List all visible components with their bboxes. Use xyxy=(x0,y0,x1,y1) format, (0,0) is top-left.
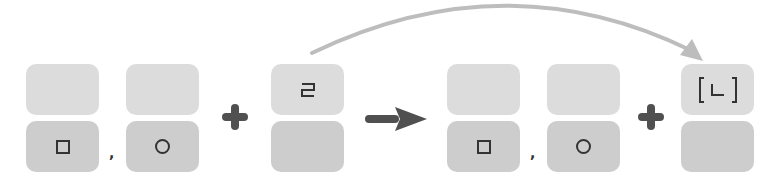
right-arrow-icon xyxy=(365,107,427,131)
nieun-bracket-glyph xyxy=(698,77,738,103)
plus-icon-2 xyxy=(638,104,664,130)
square-icon xyxy=(56,140,70,154)
left-group2-bottom-box xyxy=(126,121,199,172)
left-group1-top-box xyxy=(26,64,99,115)
circle-icon xyxy=(576,139,591,154)
circle-icon xyxy=(155,139,170,154)
left-group1-bottom-box xyxy=(26,121,99,172)
square-icon xyxy=(477,140,491,154)
rieul-glyph xyxy=(300,82,316,98)
nieun-result-top-box xyxy=(681,64,754,115)
right-group2-top-box xyxy=(547,64,620,115)
rule-diagram: , , xyxy=(0,0,776,186)
right-group1-bottom-box xyxy=(447,121,520,172)
left-group2-top-box xyxy=(126,64,199,115)
rieul-top-box xyxy=(271,64,344,115)
curved-arrow-icon xyxy=(312,6,703,61)
right-comma: , xyxy=(530,145,535,161)
left-comma: , xyxy=(109,145,114,161)
right-group1-top-box xyxy=(447,64,520,115)
rieul-bottom-box xyxy=(271,121,344,172)
plus-icon-1 xyxy=(222,104,248,130)
diagram-overlay xyxy=(0,0,776,186)
nieun-result-bottom-box xyxy=(681,121,754,172)
right-group2-bottom-box xyxy=(547,121,620,172)
